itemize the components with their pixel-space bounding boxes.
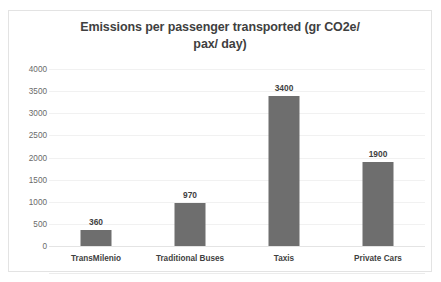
y-axis-tick-label: 4000: [9, 65, 47, 74]
y-axis-tick-label: 2500: [9, 131, 47, 140]
bar[interactable]: [81, 230, 112, 246]
x-axis-category-label: Taxis: [237, 254, 331, 263]
y-axis-tick-label: 3500: [9, 87, 47, 96]
chart-container: Emissions per passenger transported (gr …: [8, 10, 432, 272]
x-axis-categories: TransMilenioTraditional BusesTaxisPrivat…: [49, 247, 425, 274]
x-axis-category-label: Traditional Buses: [143, 254, 237, 263]
bar-value-label: 3400: [275, 83, 294, 93]
bar-group: 360: [49, 69, 143, 246]
bar[interactable]: [175, 203, 206, 246]
bar-group: 1900: [331, 69, 425, 246]
y-axis-tick-label: 2000: [9, 153, 47, 162]
y-axis-tick-label: 1000: [9, 197, 47, 206]
y-axis: 40003500300025002000150010005000: [9, 69, 47, 246]
y-axis-tick-label: 500: [9, 219, 47, 228]
plot-area: 40003500300025002000150010005000 3609703…: [9, 11, 433, 273]
bar-value-label: 970: [183, 190, 197, 200]
bar-value-label: 360: [89, 217, 103, 227]
y-axis-tick-label: 1500: [9, 175, 47, 184]
bar-value-label: 1900: [369, 149, 388, 159]
bar[interactable]: [269, 96, 300, 246]
x-axis-category-label: TransMilenio: [49, 254, 143, 263]
bars-group: 36097034001900: [49, 69, 425, 246]
x-axis-category-label: Private Cars: [331, 254, 425, 263]
bar-group: 970: [143, 69, 237, 246]
y-axis-tick-label: 3000: [9, 109, 47, 118]
bar[interactable]: [363, 162, 394, 246]
bar-group: 3400: [237, 69, 331, 246]
y-axis-tick-label: 0: [9, 242, 47, 251]
